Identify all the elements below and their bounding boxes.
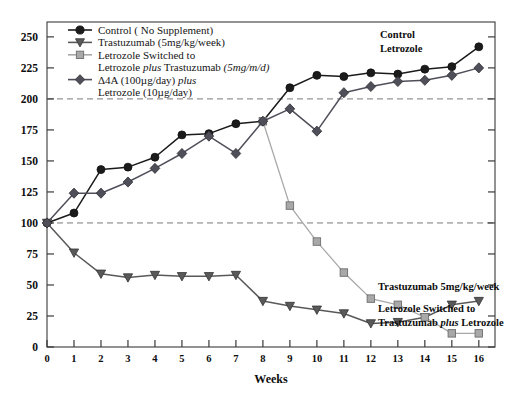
marker-circle [76, 26, 84, 34]
marker-diamond [96, 188, 106, 198]
x-tick-label-9: 9 [287, 353, 292, 364]
marker-circle [448, 63, 456, 71]
y-tick-label-175: 175 [21, 124, 39, 136]
annotation-trastuzumab: Trastuzumab 5mg/kg/week [378, 281, 500, 292]
x-tick-label-12: 12 [366, 353, 377, 364]
marker-square [340, 269, 347, 276]
x-tick-label-2: 2 [98, 353, 103, 364]
legend-item-0[interactable]: Control ( No Supplement) [68, 24, 214, 37]
marker-square [448, 330, 455, 337]
chart-svg: 0255075100125150175200225250012345678910… [0, 0, 509, 398]
x-tick-label-4: 4 [152, 353, 158, 364]
legend-label: Letrozole Switched to [98, 49, 196, 61]
y-tick-label-0: 0 [32, 341, 38, 353]
marker-circle [475, 43, 483, 51]
marker-square [286, 202, 293, 209]
marker-diamond [366, 81, 376, 91]
marker-square [313, 238, 320, 245]
figure-container: 0255075100125150175200225250012345678910… [0, 0, 509, 398]
x-tick-label-3: 3 [125, 353, 130, 364]
marker-diamond [474, 63, 484, 73]
annotation-switched-line2: Trastuzumab plus Letrozole [378, 317, 504, 328]
x-tick-label-1: 1 [71, 353, 76, 364]
legend-label: Trastuzumab (5mg/kg/week) [98, 36, 225, 49]
x-tick-label-15: 15 [447, 353, 458, 364]
marker-square [76, 51, 83, 58]
y-tick-label-225: 225 [21, 62, 39, 74]
y-tick-label-250: 250 [21, 31, 39, 43]
marker-diamond [75, 75, 84, 85]
x-tick-label-8: 8 [260, 353, 265, 364]
marker-diamond [177, 148, 187, 158]
marker-diamond [420, 75, 430, 85]
legend-label: Δ4A (100µg/day) plus [98, 74, 196, 87]
x-tick-label-7: 7 [233, 353, 238, 364]
annotation-switched-line1: Letrozole Switched to [378, 303, 475, 314]
x-tick-label-11: 11 [339, 353, 349, 364]
legend-item-1[interactable]: Trastuzumab (5mg/kg/week) [68, 36, 225, 49]
x-tick-label-16: 16 [474, 353, 485, 364]
y-tick-label-125: 125 [21, 186, 39, 198]
x-tick-label-14: 14 [420, 353, 431, 364]
legend-label: Letrozole (10µg/day) [98, 86, 192, 99]
x-tick-label-6: 6 [206, 353, 211, 364]
legend-item-2[interactable]: Letrozole Switched toLetrozole plus Tras… [68, 49, 270, 74]
marker-circle [286, 84, 294, 92]
x-axis-title: Weeks [254, 372, 288, 386]
marker-circle [367, 69, 375, 77]
marker-circle [340, 73, 348, 81]
marker-circle [124, 163, 132, 171]
y-tick-label-25: 25 [27, 310, 39, 322]
y-tick-label-100: 100 [21, 217, 39, 229]
annotation-control: Control [380, 29, 415, 40]
x-tick-label-10: 10 [312, 353, 323, 364]
marker-square [367, 295, 374, 302]
marker-diamond [123, 177, 133, 187]
y-tick-label-75: 75 [27, 248, 39, 260]
marker-diamond [393, 76, 403, 86]
marker-circle [421, 65, 429, 73]
x-tick-label-0: 0 [44, 353, 49, 364]
x-tick-label-5: 5 [179, 353, 184, 364]
marker-square [475, 330, 482, 337]
marker-diamond [447, 70, 457, 80]
x-tick-label-13: 13 [393, 353, 404, 364]
marker-circle [97, 166, 105, 174]
y-tick-label-50: 50 [27, 279, 39, 291]
marker-circle [232, 120, 240, 128]
marker-circle [178, 131, 186, 139]
annotation-letrozole: Letrozole [380, 43, 423, 54]
marker-circle [313, 71, 321, 79]
y-tick-label-150: 150 [21, 155, 39, 167]
marker-circle [151, 153, 159, 161]
legend-item-3[interactable]: Δ4A (100µg/day) plusLetrozole (10µg/day) [68, 74, 196, 99]
y-tick-label-200: 200 [21, 93, 39, 105]
legend-label: Letrozole plus Trastuzumab (5mg/m/d) [98, 61, 270, 74]
legend-label: Control ( No Supplement) [98, 24, 214, 37]
marker-circle [70, 209, 78, 217]
marker-diamond [150, 163, 160, 173]
